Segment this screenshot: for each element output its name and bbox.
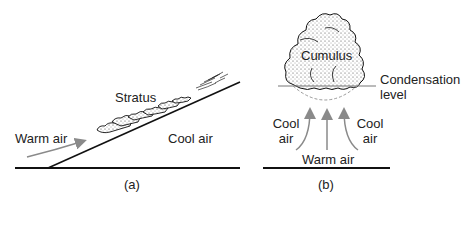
panel-a [15, 72, 240, 168]
label-stratus: Stratus [115, 90, 156, 105]
label-cool-right-2: air [354, 131, 386, 146]
label-cool-left-2: air [270, 131, 302, 146]
caption-b: (b) [318, 177, 334, 192]
caption-a: (a) [124, 177, 140, 192]
label-cool-left-1: Cool [270, 116, 302, 131]
label-cool-air-a: Cool air [168, 131, 213, 146]
label-cumulus: Cumulus [301, 48, 352, 63]
label-condensation: Condensation [380, 72, 460, 87]
label-warm-air-b: Warm air [302, 152, 354, 167]
label-cool-right-1: Cool [354, 116, 386, 131]
label-level: level [380, 87, 407, 102]
label-warm-air-a: Warm air [15, 131, 67, 146]
cirrus-wisps-icon [196, 72, 228, 90]
